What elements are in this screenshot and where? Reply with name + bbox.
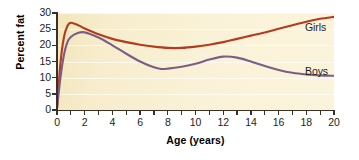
x-axis-tick-label: 4: [100, 116, 124, 128]
x-axis-tick: [139, 110, 140, 115]
plot-area: [57, 13, 334, 110]
y-axis-tick-label: 5: [29, 87, 51, 99]
x-axis-tick: [112, 110, 113, 115]
y-axis-tick-labels: 051015202530: [27, 0, 51, 160]
x-axis-tick: [333, 110, 334, 115]
chart-figure: 051015202530 02468101214161820 Percent f…: [0, 0, 359, 160]
y-axis-tick-label: 10: [29, 71, 51, 83]
x-axis-tick: [236, 110, 237, 115]
x-axis-tick: [98, 110, 99, 115]
x-axis-tick: [223, 110, 224, 115]
y-axis-tick-label: 15: [29, 55, 51, 67]
x-axis-title: Age (years): [57, 134, 334, 146]
y-axis-tick: [52, 45, 56, 46]
series-line-boys: [57, 32, 334, 108]
x-axis-tick: [306, 110, 307, 115]
x-axis-tick-label: 18: [294, 116, 318, 128]
y-axis-tick-label: 20: [29, 38, 51, 50]
x-axis-tick: [250, 110, 251, 115]
y-axis-tick: [52, 29, 56, 30]
x-axis-tick-label: 10: [184, 116, 208, 128]
x-axis-tick: [56, 110, 57, 115]
x-axis-tick: [320, 110, 321, 115]
series-label-girls: Girls: [305, 21, 326, 33]
y-axis-tick: [52, 61, 56, 62]
x-axis-tick-label: 6: [128, 116, 152, 128]
y-axis-tick-label: 0: [29, 103, 51, 115]
x-axis-tick: [126, 110, 127, 115]
x-axis-tick-label: 8: [156, 116, 180, 128]
x-axis-tick-label: 12: [211, 116, 235, 128]
series-line-girls: [57, 17, 334, 109]
x-axis-tick-label: 14: [239, 116, 263, 128]
x-axis-tick-label: 0: [45, 116, 69, 128]
y-axis-tick: [52, 77, 56, 78]
series-label-boys: Boys: [305, 65, 328, 77]
y-axis-tick: [52, 12, 56, 13]
x-axis-tick: [84, 110, 85, 115]
x-axis-tick: [278, 110, 279, 115]
x-axis-tick-label: 16: [267, 116, 291, 128]
x-axis-tick: [292, 110, 293, 115]
x-axis-tick: [167, 110, 168, 115]
y-axis-line: [56, 12, 58, 111]
y-axis-tick: [52, 93, 56, 94]
series-curves: [57, 13, 334, 110]
x-axis-tick: [181, 110, 182, 115]
x-axis-tick: [153, 110, 154, 115]
x-axis-tick: [195, 110, 196, 115]
y-axis-tick-label: 25: [29, 22, 51, 34]
x-axis-tick: [264, 110, 265, 115]
y-axis-title: Percent fat: [14, 0, 26, 84]
x-axis-tick-label: 2: [73, 116, 97, 128]
x-axis-tick: [209, 110, 210, 115]
y-axis-tick-label: 30: [29, 6, 51, 18]
x-axis-tick-label: 20: [322, 116, 346, 128]
x-axis-tick: [70, 110, 71, 115]
